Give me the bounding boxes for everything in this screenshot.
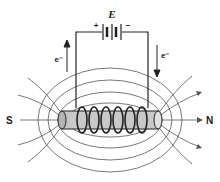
field-arrowheads	[196, 91, 203, 149]
plus-sign: +	[94, 21, 99, 30]
electromagnet-diagram: E + − e⁻ e⁻ S N	[0, 0, 220, 182]
minus-sign: −	[126, 21, 131, 30]
right-electron-label: e⁻	[161, 51, 169, 60]
electron-flow-arrow-right	[154, 45, 160, 77]
electron-flow-arrow-left	[64, 40, 70, 72]
north-pole-label: N	[206, 115, 213, 126]
battery-label: E	[107, 8, 115, 20]
left-electron-label: e⁻	[55, 55, 63, 64]
south-pole-label: S	[6, 115, 13, 126]
battery-icon	[103, 24, 121, 40]
circuit-wires	[76, 32, 148, 108]
